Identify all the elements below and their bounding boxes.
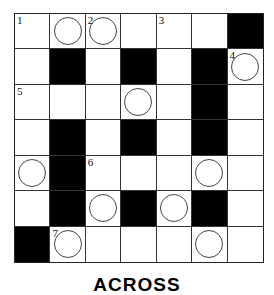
black-cell: [50, 191, 85, 226]
black-cell: [192, 191, 227, 226]
black-cell: [50, 120, 85, 155]
grid-cell[interactable]: [121, 14, 156, 49]
circle-icon: [160, 194, 188, 222]
clue-number: 2: [88, 14, 94, 26]
grid-cell[interactable]: [192, 227, 227, 262]
grid-cell[interactable]: [192, 156, 227, 191]
grid-cell[interactable]: [121, 156, 156, 191]
grid-cell[interactable]: [15, 156, 50, 191]
circle-icon: [124, 88, 152, 116]
grid-cell[interactable]: [157, 49, 192, 84]
black-cell: [121, 49, 156, 84]
black-cell: [50, 49, 85, 84]
grid-cell[interactable]: [157, 191, 192, 226]
grid-cell[interactable]: [228, 227, 263, 262]
clue-number: 4: [230, 49, 236, 61]
grid-cell[interactable]: [50, 14, 85, 49]
grid-cell[interactable]: 4: [228, 49, 263, 84]
circle-icon: [54, 17, 82, 45]
clue-number: 6: [88, 156, 94, 168]
grid-cell[interactable]: [15, 49, 50, 84]
grid-cell[interactable]: [157, 120, 192, 155]
grid-cell[interactable]: [15, 120, 50, 155]
grid-cell[interactable]: [86, 120, 121, 155]
grid-cell[interactable]: [86, 85, 121, 120]
across-heading: ACROSS: [0, 274, 274, 295]
grid-cell[interactable]: [15, 191, 50, 226]
black-cell: [228, 14, 263, 49]
clue-number: 5: [17, 85, 23, 97]
black-cell: [50, 156, 85, 191]
grid-cell[interactable]: [157, 227, 192, 262]
grid-cell[interactable]: 1: [15, 14, 50, 49]
grid-cell[interactable]: 2: [86, 14, 121, 49]
grid-cell[interactable]: [228, 85, 263, 120]
clue-number: 1: [17, 14, 23, 26]
black-cell: [192, 120, 227, 155]
grid-cell[interactable]: [86, 49, 121, 84]
grid-cell[interactable]: 7: [50, 227, 85, 262]
crossword-grid: 1234567: [14, 13, 264, 263]
grid-cell[interactable]: [228, 120, 263, 155]
circle-icon: [89, 194, 117, 222]
circle-icon: [195, 159, 223, 187]
grid-cell[interactable]: [192, 14, 227, 49]
grid-cell[interactable]: [121, 227, 156, 262]
black-cell: [15, 227, 50, 262]
grid-cell[interactable]: 6: [86, 156, 121, 191]
grid-cell[interactable]: [86, 191, 121, 226]
black-cell: [121, 120, 156, 155]
grid-cell[interactable]: [157, 85, 192, 120]
grid-cell[interactable]: [121, 85, 156, 120]
grid-cell[interactable]: [228, 156, 263, 191]
grid-cell[interactable]: 5: [15, 85, 50, 120]
grid-cell[interactable]: [157, 156, 192, 191]
circle-icon: [231, 53, 259, 81]
black-cell: [121, 191, 156, 226]
grid-cell[interactable]: [86, 227, 121, 262]
clue-number: 7: [52, 227, 58, 239]
grid-cell[interactable]: [50, 85, 85, 120]
clue-number: 3: [159, 14, 165, 26]
circle-icon: [195, 230, 223, 258]
circle-icon: [18, 159, 46, 187]
grid-cell[interactable]: 3: [157, 14, 192, 49]
black-cell: [192, 49, 227, 84]
black-cell: [192, 85, 227, 120]
grid-cell[interactable]: [228, 191, 263, 226]
